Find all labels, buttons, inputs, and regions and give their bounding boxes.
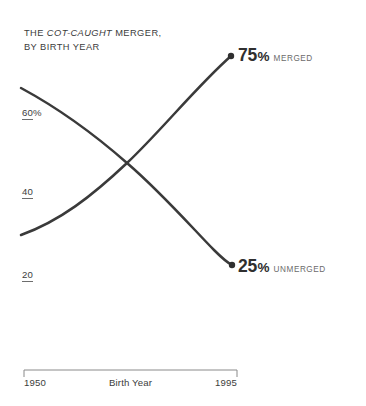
y-axis-tick-60: 60% [22,107,42,120]
endpoint-dot-unmerged [229,262,235,268]
series-annotation-unmerged: 25 % UNMERGED [238,256,326,277]
chart-container: THE COT-CAUGHT MERGER, BY BIRTH YEAR 60%… [0,0,366,406]
x-axis-tick-start: 1950 [24,377,46,388]
y-axis-tick-60-rule [22,119,33,120]
series-annotation-unmerged-value: 25 [238,256,257,277]
series-annotation-merged-value: 75 [238,45,257,66]
y-axis-tick-40-label: 40 [22,186,33,197]
y-axis-tick-40: 40 [22,186,33,199]
x-axis-title: Birth Year [109,377,152,388]
series-annotation-merged: 75 % MERGED [238,45,313,66]
y-axis-tick-60-label: 60% [22,107,42,118]
series-annotation-merged-percent: % [258,49,270,64]
y-axis-tick-40-rule [22,198,33,199]
y-axis-tick-20-label: 20 [22,269,33,280]
series-line-unmerged [21,88,232,265]
series-annotation-merged-label: MERGED [274,54,313,63]
series-annotation-unmerged-label: UNMERGED [274,265,326,274]
series-line-merged [21,56,231,235]
series-annotation-unmerged-percent: % [258,260,270,275]
y-axis-tick-20-rule [22,281,33,282]
x-axis-tick-end: 1995 [215,377,237,388]
x-axis-line [24,370,237,377]
y-axis-tick-20: 20 [22,269,33,282]
endpoint-dot-merged [228,53,234,59]
